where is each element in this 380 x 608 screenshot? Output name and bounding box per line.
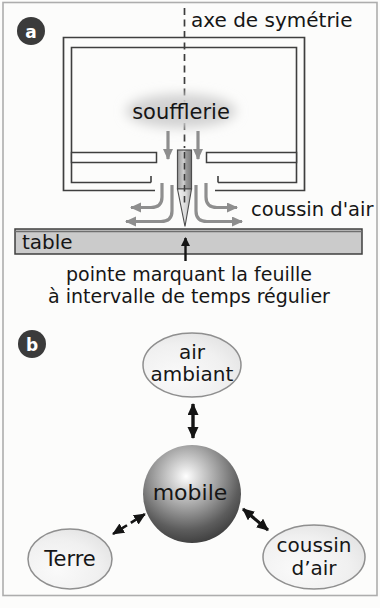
- blower-label: soufflerie: [132, 100, 230, 124]
- right-baffle-plate: [207, 153, 297, 163]
- badge-a-letter: a: [25, 22, 36, 42]
- air-cushion-label: coussin d'air: [251, 198, 374, 221]
- caption-line-1: pointe marquant la feuille: [66, 263, 312, 285]
- table-label: table: [22, 230, 73, 254]
- node-coussin-air-line1: coussin: [277, 533, 352, 557]
- panel-b: b air ambiant mobile Terre coussin d’air: [18, 330, 365, 589]
- node-air-ambiant-line1: air: [179, 340, 206, 364]
- badge-b-letter: b: [26, 335, 38, 355]
- panel-a: a axe de symétrie soufflerie coussin d'a…: [15, 8, 374, 307]
- node-coussin-air-line2: d’air: [291, 556, 337, 580]
- left-baffle-plate: [72, 153, 157, 163]
- caption-line-2: à intervalle de temps régulier: [48, 285, 330, 307]
- airflow-out-arrow-upper-right: [206, 183, 237, 208]
- node-terre-label: Terre: [43, 547, 96, 571]
- figure-air-table-schematic: a axe de symétrie soufflerie coussin d'a…: [0, 0, 380, 608]
- symmetry-axis-label: axe de symétrie: [191, 8, 352, 32]
- schematic-canvas: a axe de symétrie soufflerie coussin d'a…: [0, 0, 380, 608]
- airflow-out-arrow-upper-left: [131, 183, 162, 208]
- link-terre-mobile-dashed: [113, 514, 145, 534]
- node-air-ambiant-line2: ambiant: [151, 362, 234, 386]
- node-mobile-label: mobile: [153, 480, 228, 505]
- nozzle-cone: [178, 189, 192, 227]
- link-coussin-mobile: [243, 509, 268, 530]
